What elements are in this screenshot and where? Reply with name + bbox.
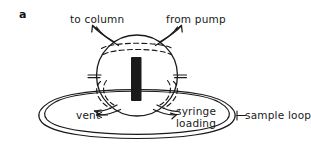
label-syringe-loading-line1: syringe	[176, 105, 216, 117]
label-to-column: to column	[70, 14, 124, 26]
label-from-pump: from pump	[166, 14, 226, 26]
figure-panel-a: a	[0, 0, 311, 149]
label-vent: vent	[76, 110, 100, 122]
dashed-channel-top-inner	[104, 49, 171, 54]
label-syringe-loading: syringeloading	[176, 106, 232, 129]
port-tube-to-column	[92, 26, 119, 46]
label-sample-loop: sample loop	[245, 110, 311, 122]
label-syringe-loading-line2: loading	[176, 117, 216, 129]
valve-schematic-drawing	[0, 0, 311, 149]
port-tube-from-pump	[156, 26, 183, 46]
rotor-bar	[131, 57, 142, 101]
